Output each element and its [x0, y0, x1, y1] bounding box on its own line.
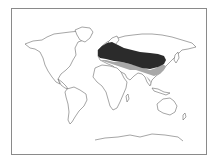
- world-map: [0, 0, 214, 163]
- south-america: [65, 87, 87, 124]
- madagascar: [126, 94, 129, 102]
- southeast-asia-islands: [152, 88, 170, 95]
- australia: [157, 98, 177, 115]
- antarctica: [95, 134, 183, 141]
- new-zealand: [183, 113, 186, 120]
